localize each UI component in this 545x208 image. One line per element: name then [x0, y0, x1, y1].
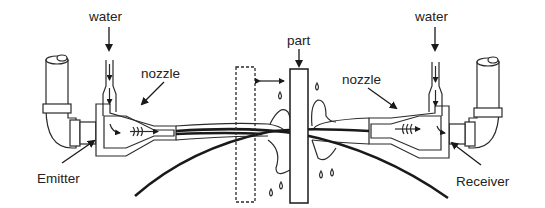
diagram-canvas: water water part nozzle nozzle Emitter R…: [0, 0, 545, 208]
water-jet: [176, 100, 369, 174]
right-assembly: [369, 57, 502, 158]
nozzle-right-arrow: [368, 88, 396, 108]
nozzle-right-label: nozzle: [342, 72, 381, 87]
part: [290, 69, 308, 203]
nozzle-left-arrow: [142, 82, 164, 104]
part-label: part: [287, 33, 311, 48]
water-right-label: water: [414, 9, 449, 24]
right-elbow-pipe: [449, 57, 502, 148]
emitter-label: Emitter: [37, 171, 80, 186]
receiver-label: Receiver: [456, 174, 510, 189]
water-left-label: water: [88, 9, 123, 24]
left-elbow-pipe: [43, 55, 96, 148]
nozzle-left-label: nozzle: [141, 66, 180, 81]
